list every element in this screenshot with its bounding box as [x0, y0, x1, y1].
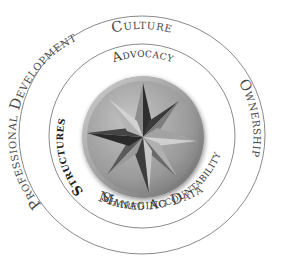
outer-label-ownership: Ownership — [236, 76, 267, 159]
framework-circle-diagram: Culture Professional Development Ownersh… — [0, 0, 282, 272]
inner-label-structures: Structures — [51, 116, 86, 199]
compass-star-icon — [82, 76, 204, 198]
outer-label-culture: Culture — [110, 16, 175, 36]
inner-label-advocacy: Advocacy — [109, 45, 176, 66]
